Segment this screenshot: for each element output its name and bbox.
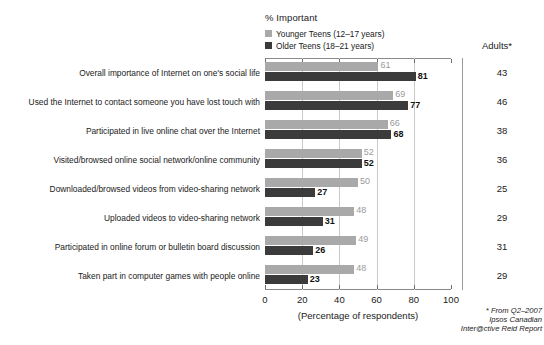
bar-value-label-older: 52 bbox=[364, 159, 374, 168]
adults-value: 38 bbox=[470, 125, 534, 136]
bar-older bbox=[265, 101, 408, 110]
adults-value: 29 bbox=[470, 212, 534, 223]
legend-item-older-teens: Older Teens (18–21 years) bbox=[265, 40, 455, 51]
footnote-line-2: Ipsos Canadian bbox=[430, 315, 542, 324]
bar-value-label-younger: 52 bbox=[364, 148, 374, 157]
bar-younger bbox=[265, 149, 362, 158]
x-tick-label: 0 bbox=[250, 294, 280, 305]
legend-label-younger-teens: Younger Teens (12–17 years) bbox=[276, 29, 384, 39]
x-axis-title: (Percentage of respondents) bbox=[265, 310, 451, 321]
bar-value-label-younger: 61 bbox=[380, 61, 390, 70]
bar-younger bbox=[265, 265, 354, 274]
axis-tick-top bbox=[451, 59, 452, 63]
adults-column-divider bbox=[462, 58, 463, 290]
legend-swatch-younger-teens bbox=[265, 30, 272, 37]
bar-group: 4823 bbox=[265, 261, 451, 290]
bar-younger bbox=[265, 62, 378, 71]
chart-title: % Important bbox=[265, 12, 455, 23]
bar-group: 6977 bbox=[265, 87, 451, 116]
legend-swatch-older-teens bbox=[265, 42, 272, 49]
bar-value-label-younger: 49 bbox=[358, 235, 368, 244]
footnote-line-3: Inter@ctive Reid Report bbox=[430, 324, 542, 333]
chart-footnote: * From Q2–2007 Ipsos Canadian Inter@ctiv… bbox=[430, 306, 542, 334]
x-tick-label: 20 bbox=[287, 294, 317, 305]
bar-group: 6668 bbox=[265, 116, 451, 145]
plot-area: 61816977666852525027483149264823 bbox=[265, 58, 451, 290]
bar-older bbox=[265, 275, 308, 284]
category-label: Participated in online forum or bulletin… bbox=[10, 242, 260, 252]
adults-value: 43 bbox=[470, 67, 534, 78]
bar-older bbox=[265, 188, 315, 197]
chart-container: % Important Younger Teens (12–17 years) … bbox=[0, 0, 544, 345]
bar-value-label-younger: 50 bbox=[360, 177, 370, 186]
category-label: Participated in live online chat over th… bbox=[10, 126, 260, 136]
category-label: Downloaded/browsed videos from video-sha… bbox=[10, 184, 260, 194]
legend-label-older-teens: Older Teens (18–21 years) bbox=[276, 41, 374, 51]
bar-value-label-older: 27 bbox=[317, 188, 327, 197]
bar-younger bbox=[265, 207, 354, 216]
adults-value-column: 4346383625293129 bbox=[470, 58, 540, 290]
adults-value: 31 bbox=[470, 241, 534, 252]
bar-group: 5252 bbox=[265, 145, 451, 174]
footnote-line-1: * From Q2–2007 bbox=[430, 306, 542, 315]
bar-older bbox=[265, 246, 313, 255]
bar-value-label-younger: 69 bbox=[395, 90, 405, 99]
category-label-column: Overall importance of Internet on one's … bbox=[8, 58, 260, 290]
bar-value-label-younger: 48 bbox=[356, 264, 366, 273]
bar-younger bbox=[265, 120, 388, 129]
category-label: Taken part in computer games with people… bbox=[10, 271, 260, 281]
category-label: Overall importance of Internet on one's … bbox=[10, 68, 260, 78]
bar-older bbox=[265, 159, 362, 168]
x-tick-label: 60 bbox=[362, 294, 392, 305]
bar-younger bbox=[265, 91, 393, 100]
bar-older bbox=[265, 72, 416, 81]
x-tick-label: 100 bbox=[436, 294, 466, 305]
x-tick-label: 40 bbox=[324, 294, 354, 305]
bar-younger bbox=[265, 178, 358, 187]
bar-older bbox=[265, 130, 391, 139]
adults-value: 36 bbox=[470, 154, 534, 165]
axis-tick-bottom bbox=[451, 285, 452, 289]
category-label: Visited/browsed online social network/on… bbox=[10, 155, 260, 165]
bar-value-label-older: 31 bbox=[325, 217, 335, 226]
chart-legend: % Important Younger Teens (12–17 years) … bbox=[265, 12, 455, 52]
bar-value-label-older: 23 bbox=[310, 275, 320, 284]
adults-value: 29 bbox=[470, 270, 534, 281]
bar-group: 4926 bbox=[265, 232, 451, 261]
adults-value: 46 bbox=[470, 96, 534, 107]
bar-value-label-older: 81 bbox=[418, 72, 428, 81]
adults-value: 25 bbox=[470, 183, 534, 194]
category-label: Used the Internet to contact someone you… bbox=[10, 97, 260, 107]
bar-value-label-older: 68 bbox=[393, 130, 403, 139]
x-tick-label: 80 bbox=[399, 294, 429, 305]
bar-younger bbox=[265, 236, 356, 245]
legend-item-younger-teens: Younger Teens (12–17 years) bbox=[265, 28, 455, 39]
adults-column-header: Adults* bbox=[462, 40, 532, 51]
bar-older bbox=[265, 217, 323, 226]
bar-value-label-younger: 66 bbox=[390, 119, 400, 128]
category-label: Uploaded videos to video-sharing network bbox=[10, 213, 260, 223]
bar-value-label-older: 26 bbox=[315, 246, 325, 255]
bar-value-label-older: 77 bbox=[410, 101, 420, 110]
bar-group: 5027 bbox=[265, 174, 451, 203]
bar-group: 4831 bbox=[265, 203, 451, 232]
bar-group: 6181 bbox=[265, 58, 451, 87]
bar-value-label-younger: 48 bbox=[356, 206, 366, 215]
